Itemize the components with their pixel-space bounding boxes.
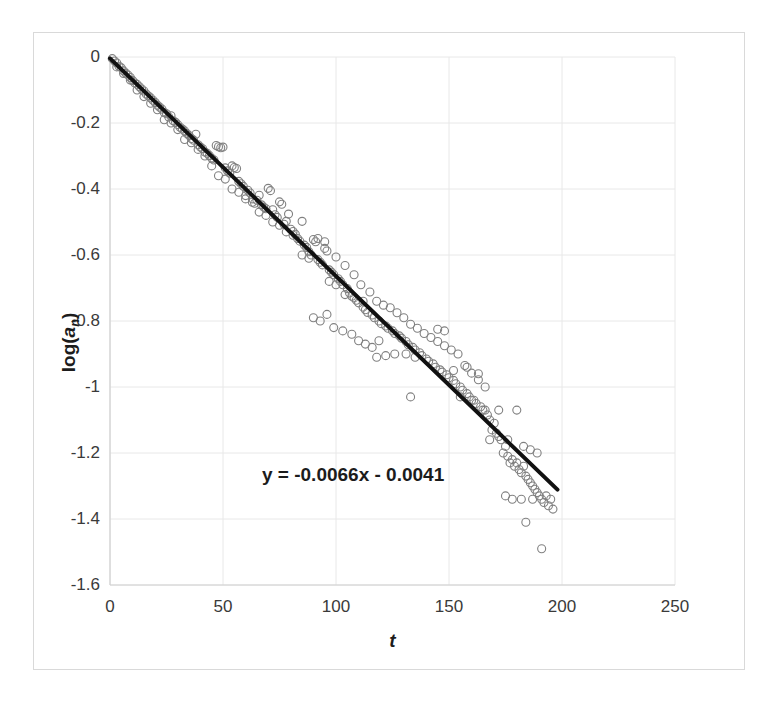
y-tick-label: 0 bbox=[44, 47, 100, 67]
y-tick-label: -1.4 bbox=[44, 509, 100, 529]
x-tick-label: 50 bbox=[193, 597, 253, 617]
x-tick-label: 0 bbox=[80, 597, 140, 617]
y-tick-label: -1.2 bbox=[44, 443, 100, 463]
trendline-equation-label: y = -0.0066x - 0.0041 bbox=[262, 464, 444, 486]
y-axis-title: log(an) bbox=[58, 262, 83, 422]
x-tick-label: 250 bbox=[645, 597, 705, 617]
x-tick-label: 100 bbox=[306, 597, 366, 617]
x-axis-title: t bbox=[110, 630, 675, 652]
x-tick-label: 150 bbox=[419, 597, 479, 617]
y-tick-label: -0.2 bbox=[44, 113, 100, 133]
chart-figure: 0-0.2-0.4-0.6-0.8-1-1.2-1.4-1.6 05010015… bbox=[0, 0, 784, 706]
y-tick-label: -1.6 bbox=[44, 575, 100, 595]
x-tick-label: 200 bbox=[532, 597, 592, 617]
y-tick-label: -0.4 bbox=[44, 179, 100, 199]
